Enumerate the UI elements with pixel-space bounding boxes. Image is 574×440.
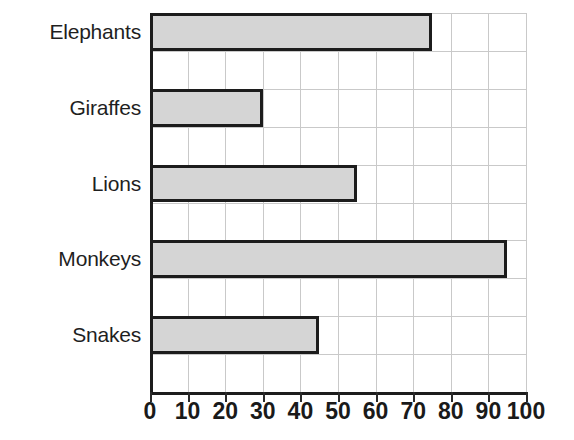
gridline-horizontal — [150, 278, 526, 279]
gridline-horizontal — [150, 51, 526, 52]
y-axis-label-lions: Lions — [0, 173, 141, 194]
gridline-horizontal — [150, 203, 526, 204]
y-axis-label-snakes: Snakes — [0, 324, 141, 345]
y-axis-label-monkeys: Monkeys — [0, 248, 141, 269]
plot-area — [150, 13, 526, 392]
x-tick-label-70: 70 — [400, 400, 426, 423]
bar-elephants[interactable] — [150, 13, 432, 51]
bar-monkeys[interactable] — [150, 240, 507, 278]
y-axis-line — [150, 13, 153, 395]
x-tick-label-0: 0 — [144, 400, 157, 423]
x-tick-label-50: 50 — [325, 400, 351, 423]
x-tick-label-10: 10 — [175, 400, 201, 423]
y-axis-category-labels: ElephantsGiraffesLionsMonkeysSnakes — [0, 13, 141, 392]
y-axis-label-giraffes: Giraffes — [0, 97, 141, 118]
x-tick-label-80: 80 — [438, 400, 464, 423]
gridline-horizontal — [150, 127, 526, 128]
bar-chart: ElephantsGiraffesLionsMonkeysSnakes 0102… — [0, 0, 574, 440]
x-tick-label-30: 30 — [250, 400, 276, 423]
bar-lions[interactable] — [150, 165, 357, 203]
bar-snakes[interactable] — [150, 316, 319, 354]
gridline-horizontal — [150, 354, 526, 355]
x-tick-label-100: 100 — [507, 400, 545, 423]
x-tick-label-20: 20 — [212, 400, 238, 423]
y-axis-label-elephants: Elephants — [0, 21, 141, 42]
x-tick-label-90: 90 — [476, 400, 502, 423]
x-tick-label-40: 40 — [288, 400, 314, 423]
x-tick-label-60: 60 — [363, 400, 389, 423]
bar-giraffes[interactable] — [150, 89, 263, 127]
gridline-vertical — [526, 13, 527, 392]
